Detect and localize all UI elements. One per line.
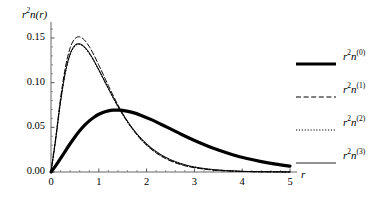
legend-key-dotted	[296, 120, 336, 128]
legend-label: r2n(0)	[343, 48, 365, 62]
chart-figure: r2n(r) r 0.000.050.100.15 012345 r2n(0)r…	[0, 0, 388, 210]
x-tick-label: 1	[89, 176, 109, 187]
legend-row[interactable]: r2n(1)	[296, 79, 388, 112]
x-tick-label: 3	[184, 176, 204, 187]
x-tick-label: 0	[41, 176, 61, 187]
y-tick-label: 0.15	[13, 31, 45, 42]
legend-row[interactable]: r2n(0)	[296, 46, 388, 79]
legend-label: r2n(1)	[343, 81, 365, 95]
legend-key-dashed	[296, 87, 336, 95]
legend-label: r2n(2)	[343, 114, 365, 128]
curve-thick-solid	[51, 110, 290, 172]
curve-dashed	[51, 37, 290, 172]
legend-row[interactable]: r2n(3)	[296, 145, 388, 178]
tick-marks	[51, 29, 290, 172]
x-tick-label: 2	[137, 176, 157, 187]
legend-label: r2n(3)	[343, 147, 365, 161]
data-curves	[51, 37, 290, 172]
legend-label-order: (0)	[357, 48, 366, 57]
legend-key-thick-solid	[296, 54, 336, 62]
y-tick-label: 0.05	[13, 120, 45, 131]
legend-label-order: (2)	[357, 114, 366, 123]
x-tick-label: 4	[232, 176, 252, 187]
y-tick-label: 0.10	[13, 76, 45, 87]
curve-dotted	[51, 44, 290, 172]
y-tick-label: 0.00	[13, 165, 45, 176]
chart-legend: r2n(0)r2n(1)r2n(2)r2n(3)	[296, 46, 388, 178]
legend-row[interactable]: r2n(2)	[296, 112, 388, 145]
legend-key-thin-solid	[296, 153, 336, 161]
legend-label-order: (1)	[357, 81, 366, 90]
legend-label-order: (3)	[357, 147, 366, 156]
curve-thin-solid	[51, 44, 290, 172]
